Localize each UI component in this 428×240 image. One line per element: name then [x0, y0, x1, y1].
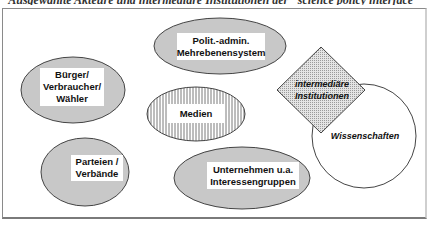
label-buerger-line2: Verbraucher/ [43, 81, 101, 93]
label-buerger-line3: Wähler [56, 93, 88, 105]
label-wissenschaften: Wissenschaften [320, 130, 410, 142]
label-buerger: Bürger/ Verbraucher/ Wähler [40, 68, 104, 106]
label-politik: Polit.-admin. Mehrebenensystem [177, 33, 265, 60]
label-parteien-line2: Verbände [76, 168, 119, 180]
label-intermediaere: intermediäre Institutionen [280, 78, 364, 102]
label-unternehmen-line1: Unternehmen u.a. [213, 164, 293, 176]
label-intermediaere-line1: intermediäre [280, 78, 364, 90]
label-parteien-line1: Parteien / [76, 156, 119, 168]
label-medien-line1: Medien [180, 108, 213, 120]
label-parteien: Parteien / Verbände [71, 155, 123, 181]
label-unternehmen-line2: Interessengruppen [210, 176, 296, 188]
label-politik-line1: Polit.-admin. [193, 35, 250, 47]
label-buerger-line1: Bürger/ [55, 69, 89, 81]
label-politik-line2: Mehrebenensystem [177, 47, 266, 59]
label-unternehmen: Unternehmen u.a. Interessengruppen [207, 162, 299, 189]
label-wissenschaften-line1: Wissenschaften [320, 130, 410, 142]
label-medien: Medien [168, 104, 224, 123]
label-intermediaere-line2: Institutionen [280, 90, 364, 102]
